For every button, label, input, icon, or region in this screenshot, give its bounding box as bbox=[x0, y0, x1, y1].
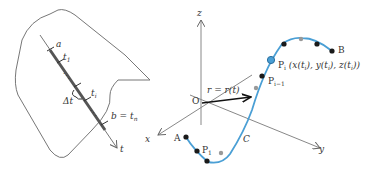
point-pi bbox=[267, 56, 274, 63]
label-a: a bbox=[56, 39, 61, 49]
label-ti: ti bbox=[91, 88, 97, 99]
label-vector: r = r(t) bbox=[207, 85, 240, 95]
position-vector bbox=[202, 97, 251, 103]
parameter-panel-outline bbox=[15, 10, 150, 158]
coordinate-axes bbox=[158, 20, 320, 148]
label-pi: Pi (x(ti), y(ti), z(ti)) bbox=[278, 60, 360, 71]
point-a bbox=[183, 134, 188, 139]
svg-text:⋱: ⋱ bbox=[63, 72, 70, 80]
point-p1 bbox=[194, 148, 199, 153]
label-b: b = tn bbox=[111, 111, 138, 122]
label-delta-t: Δt bbox=[62, 96, 73, 106]
point-b bbox=[329, 48, 334, 53]
parameter-axis: ⋱ ⋱ bbox=[40, 35, 117, 148]
label-pim1: Pi−1 bbox=[268, 76, 285, 87]
label-a-point: A bbox=[173, 133, 181, 143]
label-y-axis: y bbox=[318, 144, 325, 154]
label-p1: P1 bbox=[202, 145, 212, 156]
label-t1: t1 bbox=[63, 52, 70, 63]
label-c: C bbox=[243, 134, 250, 144]
parametric-curve-diagram: ⋱ ⋱ a t1 ti Δt b = tn t z x y O r = r(t) bbox=[0, 0, 392, 175]
label-origin: O bbox=[192, 96, 199, 106]
label-b-point: B bbox=[338, 45, 345, 55]
svg-text:⋱: ⋱ bbox=[90, 109, 97, 117]
label-z-axis: z bbox=[196, 8, 202, 18]
label-x-axis: x bbox=[145, 134, 150, 144]
label-t-axis: t bbox=[120, 144, 124, 154]
point-pim1 bbox=[259, 73, 264, 78]
